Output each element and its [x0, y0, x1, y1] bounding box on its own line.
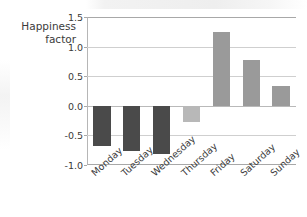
y-axis-tick-label: -1.0 [53, 160, 83, 171]
y-axis-tick-mark [84, 165, 87, 166]
y-axis-tick-label: 0.5 [53, 71, 83, 82]
bar-thursday [183, 106, 200, 122]
y-axis-tick-mark [84, 106, 87, 107]
y-axis-tick-mark [84, 47, 87, 48]
bar-monday [93, 106, 110, 146]
y-axis-tick-label: 1.5 [53, 12, 83, 23]
gridline [87, 76, 296, 77]
page-smudge-artifact [0, 60, 10, 150]
bar-chart-figure: Happiness factor 1.51.00.50.0-0.5-1.0 Mo… [0, 0, 307, 217]
y-axis-tick-label: 1.0 [53, 41, 83, 52]
y-axis-tick-mark [84, 135, 87, 136]
y-axis-tick-mark [84, 17, 87, 18]
bar-friday [213, 32, 230, 106]
y-axis-tick-label: -0.5 [53, 130, 83, 141]
page-edge-artifact [0, 0, 307, 9]
y-axis-tick-mark [84, 76, 87, 77]
y-axis-tick-label: 0.0 [53, 100, 83, 111]
bar-wednesday [153, 106, 170, 155]
bar-saturday [243, 60, 260, 106]
bar-sunday [272, 86, 289, 106]
gridline [87, 47, 296, 48]
bar-tuesday [123, 106, 140, 151]
